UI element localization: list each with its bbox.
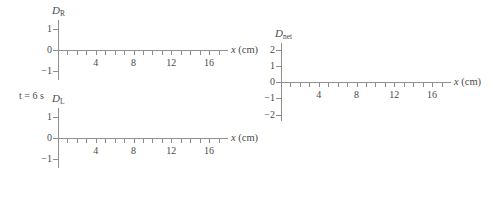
x-tick-d-r [96,51,97,55]
y-axis-title-d-net: Dnet [275,28,292,40]
x-tick-d-r [219,51,220,55]
x-tick-d-l [105,139,106,143]
plot-area-d-net: 481216210−1−2Dnetx (cm) [281,43,451,121]
y-tick-label-d-net: −2 [257,110,275,120]
x-tick-d-r [134,51,135,55]
x-tick-d-net [404,83,405,87]
x-tick-d-r [190,51,191,55]
y-axis-symbol-d-l: D [52,92,60,104]
x-tick-d-net [375,83,376,87]
x-tick-label-d-l: 4 [93,146,98,156]
x-tick-d-l [209,139,210,143]
x-axis-title-d-net: x (cm) [454,76,481,87]
x-tick-label-d-l: 16 [204,146,214,156]
y-axis-title-d-r: DR [52,5,65,17]
x-tick-d-l [181,139,182,143]
x-tick-d-l [143,139,144,143]
x-tick-d-r [209,51,210,55]
x-tick-d-r [67,51,68,55]
x-tick-label-d-l: 8 [131,146,136,156]
x-tick-d-r [152,51,153,55]
x-tick-d-net [290,83,291,87]
x-tick-d-net [385,83,386,87]
y-tick-d-net [276,98,281,99]
x-tick-d-net [423,83,424,87]
x-tick-d-l [86,139,87,143]
y-tick-label-d-net: 1 [257,61,275,71]
x-axis-unit-d-r: (cm) [236,44,258,55]
y-tick-d-l [53,159,58,160]
y-axis-title-d-l: DL [52,93,65,105]
y-axis-symbol-d-r: D [52,4,60,16]
y-tick-label-d-r: 1 [34,24,52,34]
x-tick-label-d-net: 4 [316,90,321,100]
y-tick-label-d-l: 1 [34,112,52,122]
y-axis-subscript-d-l: L [60,97,65,106]
x-tick-d-l [152,139,153,143]
x-tick-label-d-l: 12 [166,146,176,156]
x-tick-d-net [347,83,348,87]
x-tick-d-l [200,139,201,143]
x-axis-unit-d-net: (cm) [459,76,481,87]
y-tick-d-net [276,66,281,67]
x-tick-d-l [96,139,97,143]
chart-d-r: 48121610−1DRx (cm) [58,20,228,80]
y-tick-d-l [53,138,58,139]
y-tick-d-net [276,82,281,83]
x-tick-label-d-r: 12 [166,58,176,68]
y-tick-label-d-net: 2 [257,45,275,55]
x-tick-d-l [162,139,163,143]
y-axis-subscript-d-r: R [60,9,65,18]
x-tick-d-l [171,139,172,143]
y-tick-d-net [276,50,281,51]
x-tick-d-l [67,139,68,143]
x-tick-label-d-net: 12 [389,90,399,100]
x-tick-d-r [162,51,163,55]
wave-superposition-figure: t = 6 s 48121610−1DRx (cm) 48121610−1DLx… [0,0,493,202]
x-tick-d-r [200,51,201,55]
x-tick-d-l [190,139,191,143]
x-tick-d-net [328,83,329,87]
x-tick-d-net [309,83,310,87]
y-tick-d-r [53,50,58,51]
y-tick-label-d-net: −1 [257,93,275,103]
chart-d-net: 481216210−1−2Dnetx (cm) [281,43,451,121]
y-tick-label-d-l: −1 [34,154,52,164]
y-tick-label-d-l: 0 [34,133,52,143]
x-tick-d-net [366,83,367,87]
x-tick-d-l [134,139,135,143]
x-tick-d-r [171,51,172,55]
x-tick-d-l [115,139,116,143]
x-tick-d-r [143,51,144,55]
x-tick-d-net [413,83,414,87]
x-tick-d-net [394,83,395,87]
x-tick-d-r [115,51,116,55]
x-tick-label-d-r: 4 [93,58,98,68]
y-tick-d-r [53,71,58,72]
x-tick-label-d-r: 16 [204,58,214,68]
x-tick-d-net [319,83,320,87]
y-axis-symbol-d-net: D [275,27,283,39]
y-tick-label-d-r: −1 [34,66,52,76]
y-tick-label-d-net: 0 [257,77,275,87]
plot-area-d-r: 48121610−1DRx (cm) [58,20,228,80]
x-tick-label-d-r: 8 [131,58,136,68]
x-tick-d-net [442,83,443,87]
time-annotation: t = 6 s [19,91,44,101]
x-tick-d-net [338,83,339,87]
x-tick-label-d-net: 8 [354,90,359,100]
x-tick-d-l [124,139,125,143]
y-tick-d-r [53,29,58,30]
x-tick-d-net [357,83,358,87]
y-tick-label-d-r: 0 [34,45,52,55]
x-tick-d-r [105,51,106,55]
plot-area-d-l: 48121610−1DLx (cm) [58,108,228,168]
x-tick-d-net [300,83,301,87]
x-tick-d-net [432,83,433,87]
x-tick-d-l [219,139,220,143]
x-axis-title-d-r: x (cm) [231,44,258,55]
y-tick-d-l [53,117,58,118]
y-tick-d-net [276,115,281,116]
x-tick-d-r [124,51,125,55]
x-tick-d-r [181,51,182,55]
